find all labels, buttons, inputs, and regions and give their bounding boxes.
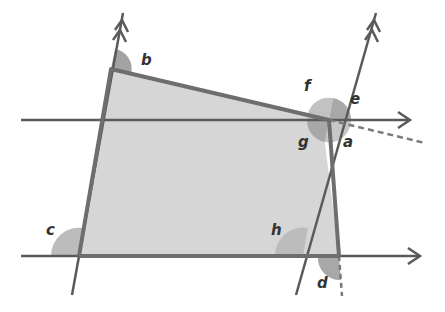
label-c: c bbox=[46, 221, 55, 239]
label-e: e bbox=[350, 90, 360, 108]
label-h: h bbox=[271, 221, 282, 239]
label-d: d bbox=[317, 274, 328, 292]
label-b: b bbox=[141, 51, 152, 69]
label-a: a bbox=[343, 133, 353, 151]
geometry-diagram: b c h d f e g a bbox=[0, 0, 445, 312]
right-double-arrow-icon-2 bbox=[365, 30, 378, 42]
label-f: f bbox=[304, 77, 313, 95]
label-g: g bbox=[298, 133, 309, 151]
